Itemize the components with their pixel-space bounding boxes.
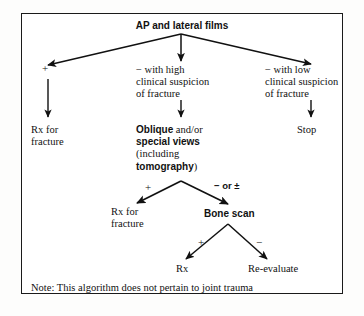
node-oblique-special-views: Oblique and/or special views (including … <box>136 124 203 173</box>
node-oblique-paren-close: ) <box>194 161 198 172</box>
edge-label-bone-positive: + <box>198 236 204 249</box>
node-rx-for-fracture-middle: Rx for fracture <box>111 206 144 230</box>
node-rx-for-fracture-middle-line1: Rx for <box>111 206 144 218</box>
node-stop: Stop <box>297 124 316 136</box>
node-rx-for-fracture-left-line2: fracture <box>31 136 64 148</box>
node-high-suspicion-line3: of fracture <box>136 88 209 100</box>
node-re-evaluate: Re-evaluate <box>248 263 298 275</box>
node-low-suspicion-line2: clinical suspicion <box>265 76 338 88</box>
node-special-views-bold: special views <box>136 136 200 147</box>
node-oblique-line4: tomography) <box>136 161 203 173</box>
node-high-suspicion: − with high clinical suspicion of fractu… <box>136 64 209 101</box>
node-rx: Rx <box>176 263 188 275</box>
diagram-note: Note: This algorithm does not pertain to… <box>31 282 253 294</box>
edge-label-second-positive: + <box>145 181 151 194</box>
node-rx-for-fracture-left: Rx for fracture <box>31 124 64 148</box>
edge-label-second-negative: − or ± <box>214 180 240 191</box>
edge-label-root-positive: + <box>42 62 48 75</box>
node-low-suspicion-line3: of fracture <box>265 88 338 100</box>
title-divider <box>22 13 342 14</box>
node-oblique-andor: and/or <box>173 124 202 135</box>
node-high-suspicion-line1: − with high <box>136 64 209 76</box>
root-node-title: AP and lateral films <box>21 20 343 32</box>
node-rx-for-fracture-left-line1: Rx for <box>31 124 64 136</box>
node-oblique-line2: special views <box>136 136 203 148</box>
node-bone-scan: Bone scan <box>204 208 255 220</box>
node-low-suspicion-line1: − with low <box>265 64 338 76</box>
node-oblique-line1: Oblique and/or <box>136 124 203 136</box>
edge-label-bone-negative: − <box>256 236 262 249</box>
node-oblique-bold: Oblique <box>136 124 173 135</box>
node-tomography-bold: tomography <box>136 161 194 172</box>
node-low-suspicion: − with low clinical suspicion of fractur… <box>265 64 338 101</box>
flowchart-page: AP and lateral films + − with high clini… <box>0 0 364 316</box>
node-rx-for-fracture-middle-line2: fracture <box>111 218 144 230</box>
node-oblique-line3: (including <box>136 148 203 160</box>
node-high-suspicion-line2: clinical suspicion <box>136 76 209 88</box>
